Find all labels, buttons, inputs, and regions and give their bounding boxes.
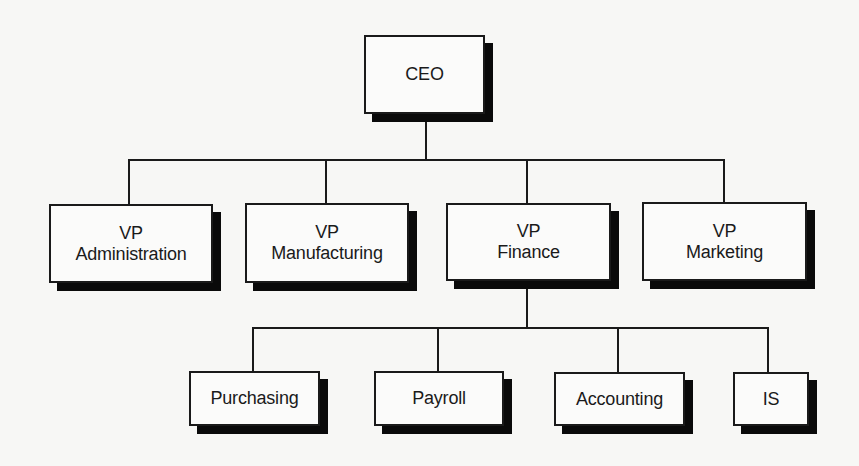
connector-vp-finance bbox=[526, 159, 528, 204]
connector-accounting bbox=[617, 327, 619, 373]
connector-payroll bbox=[437, 327, 439, 372]
node-vp-manufacturing: VP Manufacturing bbox=[245, 203, 409, 283]
node-label-line1: VP bbox=[119, 223, 143, 244]
node-label-line1: VP bbox=[713, 221, 737, 242]
node-accounting: Accounting bbox=[554, 372, 685, 426]
node-ceo: CEO bbox=[364, 35, 485, 114]
connector-finance-down bbox=[526, 288, 528, 329]
node-label-line1: VP bbox=[517, 221, 541, 242]
node-payroll: Payroll bbox=[374, 371, 504, 426]
connector-dept-bar bbox=[252, 327, 769, 329]
node-label-line2: Administration bbox=[75, 244, 186, 265]
connector-vp-administration bbox=[128, 159, 130, 204]
org-chart: CEO VP Administration VP Manufacturing V… bbox=[0, 0, 859, 466]
node-label-line2: Manufacturing bbox=[271, 243, 382, 264]
connector-ceo-down bbox=[425, 113, 427, 161]
node-label-line2: Finance bbox=[497, 242, 560, 263]
node-purchasing-label: Purchasing bbox=[210, 388, 298, 409]
node-ceo-label: CEO bbox=[405, 64, 443, 85]
connector-vp-marketing bbox=[723, 159, 725, 203]
connector-is bbox=[767, 327, 769, 373]
connector-vp-bar bbox=[128, 159, 725, 161]
connector-vp-manufacturing bbox=[325, 159, 327, 204]
node-is-label: IS bbox=[763, 389, 780, 410]
node-is: IS bbox=[733, 372, 809, 426]
node-label-line1: VP bbox=[315, 222, 339, 243]
node-purchasing: Purchasing bbox=[189, 371, 320, 426]
node-vp-marketing: VP Marketing bbox=[642, 202, 807, 281]
node-payroll-label: Payroll bbox=[412, 388, 466, 409]
node-accounting-label: Accounting bbox=[576, 389, 663, 410]
node-label-line2: Marketing bbox=[686, 242, 763, 263]
connector-purchasing bbox=[252, 327, 254, 372]
node-vp-administration: VP Administration bbox=[49, 204, 213, 283]
node-vp-finance: VP Finance bbox=[446, 203, 611, 281]
